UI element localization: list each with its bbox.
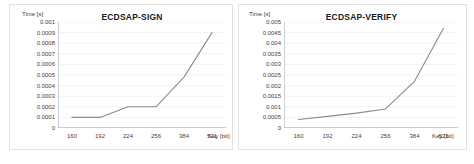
y-axis-title-verify: Time [s]: [249, 11, 270, 17]
plot-area-sign: [58, 22, 226, 128]
y-tick-label: 0.0009: [37, 30, 55, 36]
x-tick-label: 384: [179, 133, 189, 139]
x-tick-label: 192: [95, 133, 105, 139]
x-tick-label: 521: [438, 133, 448, 139]
y-tick-label: 0: [52, 125, 55, 131]
x-tick-label: 192: [322, 133, 332, 139]
series-line-verify: [299, 28, 444, 119]
y-tick-label: 0.0006: [37, 61, 55, 67]
plot-svg-verify: [284, 22, 458, 128]
chart-ecdsap-sign: ECDSAP-SIGN Time [s] Key [bit] 00.00010.…: [9, 4, 233, 150]
x-tick-label: 224: [351, 133, 361, 139]
x-tick-label: 521: [207, 133, 217, 139]
y-tick-label: 0.005: [266, 19, 281, 25]
y-axis-title-sign: Time [s]: [22, 11, 43, 17]
x-tick-label: 384: [409, 133, 419, 139]
y-tick-label: 0.0008: [37, 40, 55, 46]
charts-page: ECDSAP-SIGN Time [s] Key [bit] 00.00010.…: [0, 0, 474, 164]
plot-svg-sign: [58, 22, 226, 128]
y-tick-label: 0.0004: [37, 83, 55, 89]
y-tick-label: 0.0045: [263, 30, 281, 36]
gridlines-verify: [284, 22, 458, 128]
y-tick-label: 0.0007: [37, 51, 55, 57]
x-tick-label: 224: [123, 133, 133, 139]
y-tick-label: 0.003: [266, 61, 281, 67]
x-tick-label: 256: [151, 133, 161, 139]
x-tick-label: 160: [293, 133, 303, 139]
x-axis-ticks-verify: 160192224256384521: [284, 133, 458, 143]
y-tick-label: 0.001: [40, 19, 55, 25]
y-tick-label: 0.001: [266, 104, 281, 110]
y-tick-label: 0.0002: [37, 104, 55, 110]
y-axis-ticks-verify: 00.00050.0010.00150.0020.00250.0030.0035…: [243, 22, 281, 128]
x-tick-label: 256: [380, 133, 390, 139]
y-tick-label: 0: [278, 125, 281, 131]
gridlines-sign: [58, 22, 226, 128]
y-tick-label: 0.002: [266, 83, 281, 89]
y-tick-label: 0.0035: [263, 51, 281, 57]
plot-area-verify: [284, 22, 458, 128]
y-tick-label: 0.0003: [37, 93, 55, 99]
x-tick-label: 160: [67, 133, 77, 139]
y-tick-label: 0.0005: [263, 114, 281, 120]
y-tick-label: 0.0025: [263, 72, 281, 78]
y-tick-label: 0.0001: [37, 114, 55, 120]
x-axis-ticks-sign: 160192224256384521: [58, 133, 226, 143]
y-tick-label: 0.004: [266, 40, 281, 46]
y-tick-label: 0.0005: [37, 72, 55, 78]
y-axis-ticks-sign: 00.00010.00020.00030.00040.00050.00060.0…: [18, 22, 55, 128]
y-tick-label: 0.0015: [263, 93, 281, 99]
chart-ecdsap-verify: ECDSAP-VERIFY Time [s] Key [bit] 00.0005…: [238, 4, 467, 150]
